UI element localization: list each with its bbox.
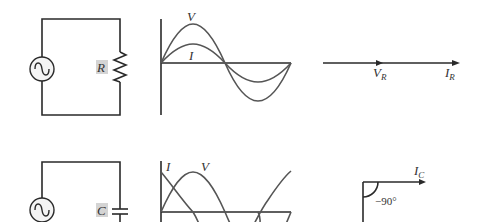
- ac-circuits-diagram: R V I VR IR C: [0, 0, 484, 222]
- capacitor-waveform: I V: [161, 159, 291, 222]
- capacitor-phasor: IC −90°: [363, 163, 426, 222]
- ir-label: IR: [444, 65, 455, 82]
- top-wire: [42, 162, 120, 209]
- vr-label: VR: [373, 65, 387, 82]
- current-curve-continuation: [250, 171, 291, 222]
- top-wire: [42, 19, 120, 57]
- current-curve: [161, 172, 202, 222]
- resistor-waveform: V I: [161, 9, 291, 115]
- ac-source-icon: [30, 198, 54, 222]
- capacitor-label: C: [97, 203, 106, 218]
- capacitor-circuit: C: [30, 162, 128, 222]
- voltage-label: V: [201, 159, 211, 174]
- voltage-curve: [161, 172, 236, 222]
- angle-label: −90°: [375, 195, 397, 207]
- voltage-label: V: [187, 9, 197, 24]
- resistor-circuit: R: [30, 19, 126, 115]
- bottom-wire: [42, 81, 120, 115]
- ac-source-icon: [30, 57, 54, 81]
- ic-label: IC: [413, 163, 425, 180]
- arrow-icon: [452, 60, 460, 66]
- resistor-phasor: VR IR: [323, 60, 460, 82]
- capacitor-icon: [112, 209, 128, 214]
- current-label: I: [188, 48, 194, 63]
- resistor-label: R: [96, 60, 105, 75]
- voltage-curve-continuation: [286, 212, 291, 222]
- resistor-icon: [114, 52, 126, 82]
- current-label: I: [165, 159, 171, 174]
